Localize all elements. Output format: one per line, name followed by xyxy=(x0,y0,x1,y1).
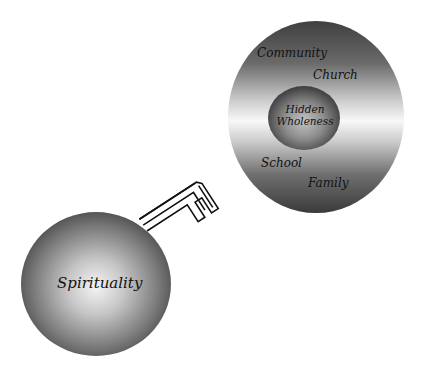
diagram-svg xyxy=(0,0,424,376)
label-spirituality: Spirituality xyxy=(57,274,142,292)
label-church: Church xyxy=(313,68,358,82)
label-hidden: Hidden xyxy=(274,103,336,115)
label-school: School xyxy=(261,156,302,170)
label-family: Family xyxy=(308,176,349,190)
label-hidden-wholeness: Hidden Wholeness xyxy=(274,103,336,127)
diagram-canvas: Community Church School Family Hidden Wh… xyxy=(0,0,424,376)
label-community: Community xyxy=(257,46,327,60)
label-wholeness: Wholeness xyxy=(274,115,336,127)
